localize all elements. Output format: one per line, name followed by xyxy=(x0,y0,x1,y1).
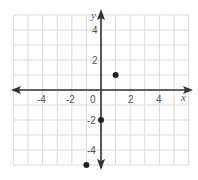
data-point xyxy=(83,162,89,168)
y-tick-2: 2 xyxy=(92,55,98,66)
x-tick-4: 4 xyxy=(156,94,162,105)
origin-label: 0 xyxy=(90,94,96,105)
x-tick-2: 2 xyxy=(128,94,134,105)
y-tick-neg2: -2 xyxy=(87,115,96,126)
y-tick-4: 4 xyxy=(92,25,98,36)
x-axis-label: x xyxy=(180,91,186,103)
x-axis xyxy=(11,86,193,94)
x-tick-neg4: -4 xyxy=(37,94,46,105)
coordinate-plane: y x -4 -2 0 2 4 4 2 -2 -4 xyxy=(0,0,198,180)
x-tick-neg2: -2 xyxy=(66,94,75,105)
data-point xyxy=(113,72,119,78)
data-point xyxy=(98,117,104,123)
y-tick-neg4: -4 xyxy=(87,145,96,156)
y-axis-label: y xyxy=(90,9,96,21)
